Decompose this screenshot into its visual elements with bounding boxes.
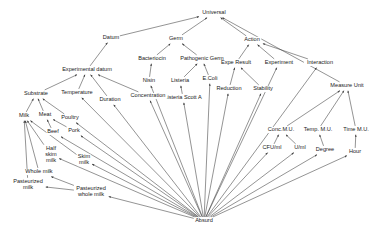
- node-meat[interactable]: Meat: [39, 111, 52, 118]
- edge-nisin-to-bacteriocin: [150, 64, 152, 77]
- node-label-concentration: Concentration: [131, 92, 166, 98]
- edge-milk-to-substrate: [26, 99, 33, 112]
- node-action[interactable]: Action: [243, 36, 262, 43]
- node-germ[interactable]: Germ: [169, 35, 183, 42]
- node-label-experiment: Experiment: [265, 59, 294, 65]
- node-absurd[interactable]: Absurd: [195, 217, 214, 224]
- node-conc_mu[interactable]: Conc.M.U.: [268, 126, 295, 133]
- node-pathogenic_germ[interactable]: Pathogenic Germ: [180, 55, 224, 62]
- node-label-germ: Germ: [169, 35, 183, 41]
- node-label-meat: Meat: [39, 111, 52, 117]
- node-label-cfu_ml: CFU/ml: [263, 144, 282, 150]
- edge-pasteurized_whole_milk-to-pasteurized_milk: [46, 187, 74, 190]
- node-label-beef: Beef: [47, 128, 59, 134]
- edge-time_mu-to-measure_unit: [348, 91, 355, 126]
- node-beef[interactable]: Beef: [47, 128, 60, 135]
- edge-experimental_datum-to-datum: [90, 43, 107, 66]
- edge-listeria_scott_a-to-listeria: [181, 86, 182, 94]
- edge-absurd-to-pork: [81, 136, 198, 217]
- node-temp_mu[interactable]: Temp. M.U.: [303, 126, 333, 133]
- node-label-measure_unit: Measure Unit: [330, 82, 364, 88]
- node-label-absurd: Absurd: [195, 217, 213, 223]
- node-pasteurized_whole_milk[interactable]: Pasteurizedwhole milk: [75, 185, 107, 198]
- node-u_ml[interactable]: U/ml: [294, 144, 307, 151]
- node-label-temp_mu: Temp. M.U.: [304, 126, 333, 132]
- node-cfu_ml[interactable]: CFU/ml: [263, 144, 282, 151]
- edge-pathogenic_germ-to-germ: [182, 44, 197, 55]
- node-label-action: Action: [244, 36, 260, 42]
- edge-reduction-to-expe_result: [230, 68, 235, 85]
- edge-bacteriocin-to-germ: [157, 44, 170, 55]
- node-experiment[interactable]: Experiment: [264, 59, 294, 66]
- edge-interaction-to-action: [263, 44, 308, 59]
- node-label-reduction: Reduction: [216, 85, 241, 91]
- node-label-substrate: Substrate: [24, 90, 48, 96]
- node-label-u_ml: U/ml: [294, 144, 306, 150]
- node-label-time_mu: Time M.U.: [343, 126, 369, 132]
- edge-absurd-to-hour: [213, 156, 347, 217]
- edge-absurd-to-degree: [211, 155, 317, 217]
- node-label-universal: Universal: [202, 9, 225, 15]
- edge-absurd-to-duration: [114, 105, 201, 217]
- edge-ecoli-to-pathogenic_germ: [204, 64, 208, 75]
- node-stability[interactable]: Stability: [250, 85, 277, 92]
- node-poultry[interactable]: Poultry: [59, 114, 80, 121]
- edge-absurd-to-poultry: [76, 123, 199, 217]
- node-concentration[interactable]: Concentration: [129, 92, 167, 99]
- node-time_mu[interactable]: Time M.U.: [343, 126, 370, 133]
- node-label-bacteriocin: Bacteriocin: [138, 55, 166, 61]
- node-label-hour: Hour: [349, 148, 361, 154]
- node-datum[interactable]: Datum: [103, 34, 120, 41]
- edge-concentration-to-experimental_datum: [98, 75, 138, 92]
- node-universal[interactable]: Universal: [201, 9, 228, 16]
- node-label-skim_milk: Skimmilk: [78, 153, 91, 165]
- edge-expe_result-to-action: [239, 45, 249, 59]
- edge-absurd-to-cfu_ml: [208, 153, 268, 217]
- node-reduction[interactable]: Reduction: [216, 85, 243, 92]
- node-skim_milk[interactable]: Skimmilk: [78, 153, 91, 166]
- edge-absurd-to-ecoli: [204, 84, 210, 217]
- node-expe_result[interactable]: Expe Result: [220, 59, 252, 66]
- node-label-temperature: Temperature: [61, 89, 92, 95]
- node-label-pathogenic_germ: Pathogenic Germ: [180, 55, 224, 61]
- nodes-layer: UniversalDatumGermActionExperimental dat…: [12, 9, 370, 224]
- edge-pasteurized_whole_milk-to-whole_milk: [51, 177, 74, 186]
- node-experimental_datum[interactable]: Experimental datum: [61, 66, 113, 73]
- edge-absurd-to-listeria_scott_a: [184, 103, 204, 217]
- node-label-duration: Duration: [99, 96, 120, 102]
- node-label-listeria: Listeria: [171, 77, 190, 83]
- edge-temperature-to-experimental_datum: [79, 75, 85, 89]
- edge-action-to-universal: [221, 18, 247, 36]
- node-half_skim_milk[interactable]: Halfskimmilk: [45, 145, 58, 164]
- node-temperature[interactable]: Temperature: [61, 89, 93, 96]
- node-label-milk: Milk: [19, 112, 29, 118]
- node-label-listeria_scott_a: Listeria Scott A: [164, 94, 202, 100]
- node-label-poultry: Poultry: [61, 114, 79, 120]
- node-whole_milk[interactable]: Whole milk: [24, 168, 54, 175]
- edge-absurd-to-nisin: [151, 86, 203, 217]
- node-measure_unit[interactable]: Measure Unit: [330, 82, 365, 89]
- node-label-expe_result: Expe Result: [221, 59, 252, 65]
- node-bacteriocin[interactable]: Bacteriocin: [136, 55, 168, 62]
- edge-cfu_ml-to-conc_mu: [274, 135, 279, 144]
- node-substrate[interactable]: Substrate: [23, 90, 50, 97]
- edge-absurd-to-temperature: [82, 98, 200, 217]
- edge-stability-to-expe_result: [241, 68, 259, 85]
- node-label-pasteurized_whole_milk: Pasteurizedwhole milk: [76, 185, 106, 197]
- node-hour[interactable]: Hour: [349, 148, 362, 155]
- edge-meat-to-substrate: [38, 99, 43, 111]
- node-pasteurized_milk[interactable]: Pasteurizedmilk: [12, 178, 44, 191]
- node-degree[interactable]: Degree: [316, 146, 335, 153]
- node-duration[interactable]: Duration: [98, 96, 122, 103]
- edge-hour-to-time_mu: [355, 135, 356, 148]
- node-pork[interactable]: Pork: [68, 127, 81, 134]
- node-label-conc_mu: Conc.M.U.: [268, 126, 295, 132]
- node-label-stability: Stability: [253, 85, 273, 91]
- node-interaction[interactable]: Interaction: [304, 59, 336, 66]
- node-listeria[interactable]: Listeria: [168, 77, 192, 84]
- node-ecoli[interactable]: E.Coli: [201, 75, 220, 82]
- node-listeria_scott_a[interactable]: Listeria Scott A: [160, 94, 206, 101]
- node-milk[interactable]: Milk: [18, 112, 31, 119]
- graph-canvas: UniversalDatumGermActionExperimental dat…: [0, 0, 382, 236]
- node-nisin[interactable]: Nisin: [141, 77, 157, 84]
